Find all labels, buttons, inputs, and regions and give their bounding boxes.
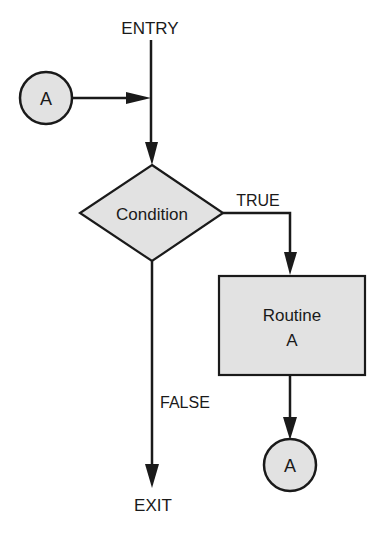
- flowchart-canvas: ENTRY A Condition TRUE Routine A A FALSE…: [0, 0, 382, 539]
- false-branch-label: FALSE: [160, 394, 210, 411]
- exit-label: EXIT: [134, 496, 172, 515]
- routine-out-arrowhead: [283, 417, 297, 440]
- connector-in[interactable]: A: [20, 72, 72, 124]
- entry-arrowhead: [145, 142, 158, 165]
- entry-label: ENTRY: [121, 19, 178, 38]
- condition-decision[interactable]: Condition: [80, 165, 223, 261]
- connector-in-arrowhead: [126, 92, 151, 104]
- routine-label-line2: A: [286, 331, 298, 350]
- connector-out-label: A: [284, 456, 296, 476]
- condition-label: Condition: [116, 205, 188, 224]
- connector-out[interactable]: A: [264, 439, 316, 491]
- true-branch-label: TRUE: [236, 192, 280, 209]
- routine-label-line1: Routine: [263, 306, 322, 325]
- true-branch-arrowhead: [284, 252, 297, 275]
- connector-in-label: A: [40, 89, 52, 109]
- true-branch-line: [223, 213, 290, 258]
- false-branch-arrowhead: [145, 464, 159, 488]
- routine-a-process[interactable]: Routine A: [219, 276, 365, 375]
